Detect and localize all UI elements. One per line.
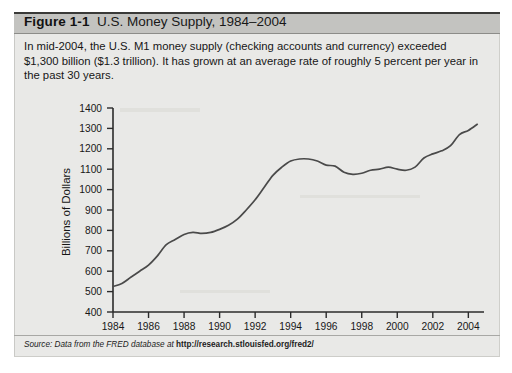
y-axis-title: Billions of Dollars — [60, 168, 72, 256]
source-prefix: Source: Data from the FRED database at — [24, 340, 176, 349]
figure-root: Figure 1-1 U.S. Money Supply, 1984–2004 … — [0, 0, 512, 373]
y-tick-label: 700 — [85, 245, 102, 256]
x-tick-label: 1986 — [137, 321, 160, 332]
x-tick-label: 2004 — [457, 321, 480, 332]
x-tick-label: 1994 — [279, 321, 302, 332]
x-tick-label: 1998 — [350, 321, 373, 332]
data-series-line — [113, 124, 477, 286]
y-tick-label: 800 — [85, 225, 102, 236]
y-tick-label: 400 — [85, 307, 102, 318]
x-tick-label: 1988 — [173, 321, 196, 332]
y-tick-label: 1300 — [79, 123, 102, 134]
svg-text:Billions of Dollars: Billions of Dollars — [60, 168, 72, 256]
panel-edge-bottom — [14, 356, 500, 357]
y-tick-label: 500 — [85, 286, 102, 297]
y-tick-label: 900 — [85, 205, 102, 216]
y-tick-label: 1200 — [79, 143, 102, 154]
y-tick-label: 1000 — [79, 184, 102, 195]
x-tick-label: 1984 — [102, 321, 125, 332]
y-tick-label: 600 — [85, 266, 102, 277]
y-tick-label: 1100 — [80, 164, 102, 175]
figure-caption: In mid-2004, the U.S. M1 money supply (c… — [24, 39, 484, 83]
source-url[interactable]: http://research.stlouisfed.org/fred2/ — [176, 340, 314, 349]
x-tick-label: 1996 — [315, 321, 338, 332]
x-tick-label: 2002 — [421, 321, 444, 332]
title-rule-bottom — [14, 33, 500, 34]
x-tick-label: 1992 — [244, 321, 267, 332]
figure-number: Figure 1-1 — [24, 14, 90, 29]
x-tick-label: 2000 — [386, 321, 409, 332]
y-axis-ticks: 40050060070080090010001100120013001400 — [79, 103, 113, 318]
x-axis-ticks: 1984198619881990199219941996199820002002… — [102, 312, 480, 332]
y-tick-label: 1400 — [79, 103, 102, 114]
x-tick-label: 1990 — [208, 321, 231, 332]
figure-title: U.S. Money Supply, 1984–2004 — [97, 14, 287, 29]
source-note: Source: Data from the FRED database at h… — [24, 340, 484, 349]
source-rule — [14, 335, 500, 336]
line-chart: Billions of Dollars 40050060070080090010… — [14, 92, 500, 332]
